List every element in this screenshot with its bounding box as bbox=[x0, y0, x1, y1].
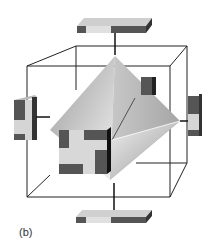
figure-label: (b) bbox=[19, 226, 32, 238]
right-tile bbox=[180, 94, 202, 136]
octahedron-cube-diagram bbox=[0, 0, 213, 246]
back-tile bbox=[141, 77, 156, 95]
left-tile bbox=[14, 95, 50, 140]
front-tile bbox=[59, 127, 111, 174]
top-tile bbox=[77, 18, 152, 55]
bottom-tile bbox=[76, 183, 152, 223]
